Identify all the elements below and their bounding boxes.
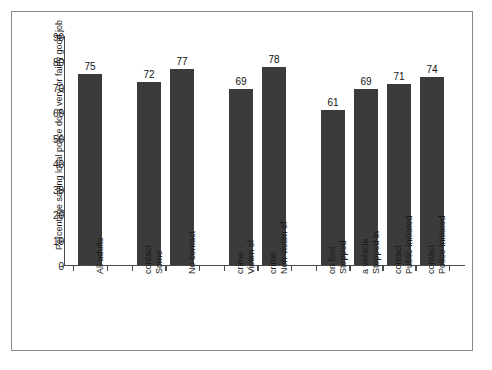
x-category-label-line: All adults: [95, 237, 106, 274]
x-tick-mark: [291, 266, 292, 271]
bar-value-label: 78: [256, 54, 292, 65]
x-category-label-line: No contact: [187, 231, 198, 274]
x-tick-mark: [416, 266, 417, 271]
bar-value-label: 72: [131, 69, 167, 80]
x-tick-mark: [224, 266, 225, 271]
x-tick-mark: [132, 266, 133, 271]
x-category-label-line: contact: [393, 245, 404, 274]
bar-value-label: 75: [72, 61, 108, 72]
bar-value-label: 69: [223, 76, 259, 87]
x-category-label-line: Non-victim of: [279, 221, 290, 274]
x-tick-mark: [383, 266, 384, 271]
x-category-label-line: Police-initiated: [437, 215, 448, 274]
x-tick-mark: [449, 266, 450, 271]
x-category-label-line: on foot: [327, 246, 338, 274]
x-category-label-line: contact: [426, 245, 437, 274]
bar: [229, 89, 253, 265]
x-category-label-line: Public-initiated: [404, 215, 415, 274]
x-category-label-line: Stopped in: [371, 231, 382, 274]
bar: [137, 82, 161, 265]
bar-value-label: 69: [348, 76, 384, 87]
x-category-label-line: crime: [268, 252, 279, 274]
x-tick-mark: [166, 266, 167, 271]
x-tick-mark: [199, 266, 200, 271]
chart-figure: Percentage saying local police do a very…: [0, 0, 492, 370]
x-tick-mark: [258, 266, 259, 271]
x-category-label-line: contact: [143, 245, 154, 274]
x-category-label-line: Stopped: [338, 240, 349, 274]
x-category-label-line: Victim of: [246, 240, 257, 274]
x-category-label-line: Some: [154, 250, 165, 274]
x-tick-mark: [73, 266, 74, 271]
x-tick-mark: [107, 266, 108, 271]
x-category-label-line: a vehicle: [360, 238, 371, 274]
x-tick-mark: [350, 266, 351, 271]
bar-value-label: 61: [315, 97, 351, 108]
bar-value-label: 77: [164, 56, 200, 67]
x-tick-mark: [316, 266, 317, 271]
bar-value-label: 71: [381, 71, 417, 82]
chart-frame: Percentage saying local police do a very…: [11, 11, 473, 351]
bar-value-label: 74: [414, 64, 450, 75]
x-category-label-line: crime: [235, 252, 246, 274]
